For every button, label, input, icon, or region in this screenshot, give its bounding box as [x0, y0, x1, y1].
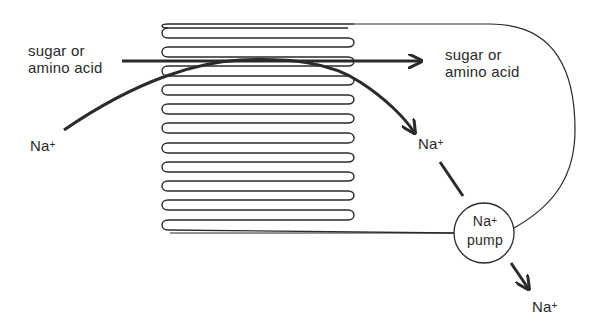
- na-bottom-label: Na+: [532, 298, 558, 315]
- plus-charge: +: [438, 137, 444, 148]
- label-line: amino acid: [28, 59, 103, 76]
- na-symbol: Na: [532, 298, 552, 315]
- sodium-efflux-arrow: [511, 263, 528, 288]
- na-left-label: Na+: [30, 137, 56, 154]
- label-line: sugar or: [28, 42, 103, 59]
- label-line: sugar or: [445, 46, 520, 63]
- label-line: amino acid: [445, 63, 520, 80]
- na-mid-label: Na+: [418, 135, 444, 152]
- na-pump-label: Na+ pump: [458, 212, 512, 250]
- plus-charge: +: [50, 139, 56, 150]
- right-solute-label: sugar or amino acid: [445, 46, 520, 80]
- sodium-cotransport-arrow: [64, 60, 414, 132]
- plus-charge: +: [491, 215, 497, 226]
- na-symbol: Na: [473, 213, 491, 229]
- sodium-to-pump-line: [440, 162, 463, 196]
- na-symbol: Na: [418, 135, 438, 152]
- plus-charge: +: [552, 300, 558, 311]
- pump-word: pump: [458, 231, 512, 250]
- microvilli-membrane-path: [162, 28, 454, 233]
- left-solute-label: sugar or amino acid: [28, 42, 103, 76]
- pump-ion: Na+: [458, 212, 512, 231]
- na-symbol: Na: [30, 137, 50, 154]
